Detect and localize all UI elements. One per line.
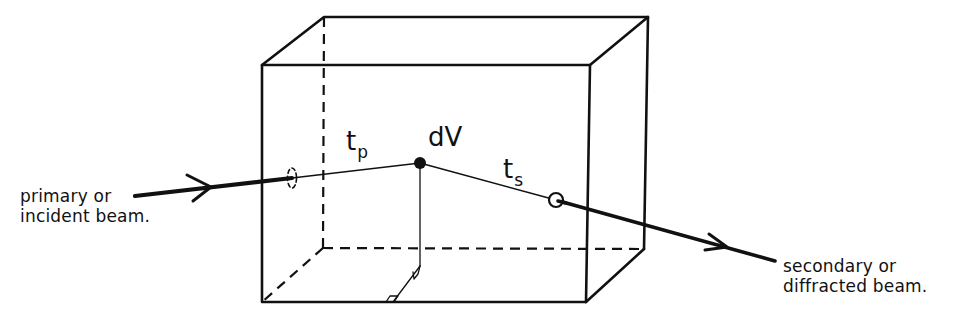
tp-subscript: p	[357, 142, 368, 162]
ts-subscript: s	[514, 170, 523, 190]
incident-label-line1: primary or	[20, 186, 150, 206]
diffracted-beam-label: secondary or diffracted beam.	[783, 256, 927, 296]
volume-element-label: dV	[428, 124, 462, 150]
volume-element-dot	[414, 157, 426, 169]
perpendicular-drop-line	[386, 163, 420, 302]
secondary-path-line	[420, 163, 556, 200]
right-angle-marker-upper	[413, 266, 420, 279]
incident-beam-arrow	[135, 175, 292, 201]
box-bottom-right-edge	[586, 249, 644, 302]
incident-label-line2: incident beam.	[20, 206, 150, 226]
diffracted-beam-arrow	[559, 201, 775, 261]
diffracted-label-line1: secondary or	[783, 256, 927, 276]
diffracted-label-line2: diffracted beam.	[783, 276, 927, 296]
secondary-path-length-label: ts	[503, 156, 523, 182]
primary-path-line	[292, 163, 420, 178]
tp-main: t	[346, 126, 356, 156]
primary-path-length-label: tp	[346, 128, 368, 154]
incident-beam-label: primary or incident beam.	[20, 186, 150, 226]
box-front-face	[262, 65, 590, 302]
ts-main: t	[503, 154, 513, 184]
crystal-box	[262, 17, 648, 302]
box-top-right-edge	[590, 17, 648, 65]
diffraction-geometry-diagram: primary or incident beam. secondary or d…	[0, 0, 963, 318]
